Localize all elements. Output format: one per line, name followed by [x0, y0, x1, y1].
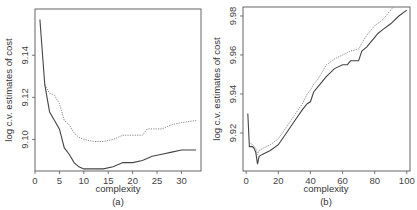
x-tick-label: 80	[369, 175, 380, 186]
y-tick-label: 9.12	[19, 88, 30, 107]
panel-label: (a)	[112, 196, 124, 207]
x-tick-label: 5	[57, 175, 62, 186]
y-tick-label: 9.94	[227, 85, 238, 104]
plot-frame	[243, 7, 410, 171]
x-axis-label: complexity	[96, 183, 141, 194]
y-tick-label: 9.96	[227, 46, 238, 65]
dotted-series-line	[249, 4, 395, 154]
y-axis-label: log c.v. estimates of cost	[3, 38, 14, 142]
y-tick-label: 9.92	[227, 124, 238, 143]
dotted-series-line	[45, 85, 196, 142]
x-tick-label: 30	[176, 175, 187, 186]
panel-label: (b)	[320, 196, 332, 207]
y-tick-label: 9.10	[19, 130, 30, 149]
plot-frame	[35, 9, 201, 171]
x-tick-label: 100	[399, 175, 415, 186]
x-tick-label: 20	[273, 175, 284, 186]
y-tick-label: 9.98	[227, 7, 238, 26]
solid-series-line	[40, 20, 196, 169]
chart-figure: 0510152025309.109.129.14complexity(a)log…	[0, 0, 417, 210]
y-axis-label: log c.v. estimates of cost	[211, 37, 222, 141]
x-tick-label: 25	[152, 175, 163, 186]
y-tick-label: 9.14	[19, 46, 30, 65]
x-tick-label: 10	[79, 175, 90, 186]
panel-a-chart: 0510152025309.109.129.14complexity(a)log…	[3, 9, 201, 207]
solid-series-line	[248, 10, 407, 164]
panel-b-chart: 0204060801009.929.949.969.98complexity(b…	[211, 4, 415, 207]
x-axis-label: complexity	[304, 183, 349, 194]
x-tick-label: 0	[244, 175, 249, 186]
x-tick-label: 0	[32, 175, 37, 186]
